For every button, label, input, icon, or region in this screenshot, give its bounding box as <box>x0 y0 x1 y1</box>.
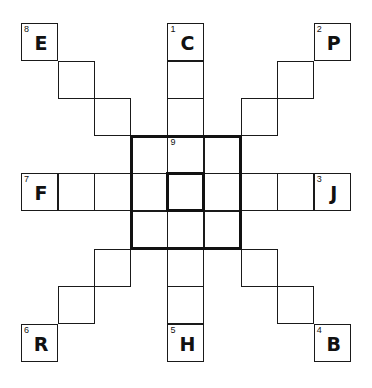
clue-cell-r[interactable]: 6R <box>21 324 58 362</box>
clue-cell-f[interactable]: 7F <box>21 173 58 211</box>
grid-cell[interactable] <box>94 173 131 211</box>
grid-cell[interactable] <box>277 61 314 99</box>
grid-cell[interactable] <box>58 286 95 324</box>
grid-cell[interactable] <box>94 249 131 287</box>
grid-cell[interactable] <box>241 249 278 287</box>
grid-cell[interactable] <box>167 61 204 99</box>
grid-cell[interactable] <box>277 173 314 211</box>
cell-letter: C <box>168 31 203 55</box>
grid-cell[interactable] <box>167 173 204 211</box>
grid-cell[interactable] <box>167 211 204 249</box>
grid-cell[interactable] <box>204 136 241 174</box>
cell-letter: R <box>22 332 57 356</box>
grid-cell[interactable]: 9 <box>167 136 204 174</box>
clue-cell-c[interactable]: 1C <box>167 23 204 61</box>
grid-cell[interactable] <box>58 61 95 99</box>
clue-cell-p[interactable]: 2P <box>314 23 351 61</box>
puzzle-grid: 8E2P6R4B1C95H7F3J <box>0 0 372 388</box>
grid-cell[interactable] <box>94 98 131 136</box>
clue-cell-e[interactable]: 8E <box>21 23 58 61</box>
cell-letter: J <box>315 181 350 205</box>
cell-letter: B <box>315 332 350 356</box>
cell-letter: E <box>22 31 57 55</box>
clue-cell-j[interactable]: 3J <box>314 173 351 211</box>
grid-cell[interactable] <box>167 98 204 136</box>
grid-cell[interactable] <box>131 136 168 174</box>
cell-letter: H <box>168 332 203 356</box>
cell-letter: P <box>315 31 350 55</box>
grid-cell[interactable] <box>241 98 278 136</box>
grid-cell[interactable] <box>241 173 278 211</box>
clue-number: 9 <box>170 137 175 148</box>
grid-cell[interactable] <box>167 249 204 287</box>
cell-letter: F <box>22 181 57 205</box>
grid-cell[interactable] <box>204 211 241 249</box>
clue-cell-b[interactable]: 4B <box>314 324 351 362</box>
grid-cell[interactable] <box>131 211 168 249</box>
grid-cell[interactable] <box>58 173 95 211</box>
grid-cell[interactable] <box>277 286 314 324</box>
grid-cell[interactable] <box>167 286 204 324</box>
grid-cell[interactable] <box>204 173 241 211</box>
grid-cell[interactable] <box>131 173 168 211</box>
clue-cell-h[interactable]: 5H <box>167 324 204 362</box>
